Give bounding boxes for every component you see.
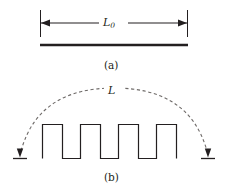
panel-b-group (13, 88, 215, 159)
left-arrowhead-icon (41, 20, 50, 27)
dimension-label-l0: L0 (103, 17, 115, 30)
right-down-arrowhead-icon (205, 149, 211, 158)
right-arrowhead-icon (178, 20, 187, 27)
left-down-arrowhead-icon (17, 149, 23, 158)
panel-b-caption: (b) (104, 172, 119, 183)
figure-container: L0 L (a) (b) (0, 0, 228, 195)
rod-square-wave (43, 125, 177, 159)
dimension-label-l0-subscript: 0 (110, 21, 115, 30)
panel-a-caption: (a) (104, 60, 118, 71)
span-label-l: L (108, 85, 115, 96)
